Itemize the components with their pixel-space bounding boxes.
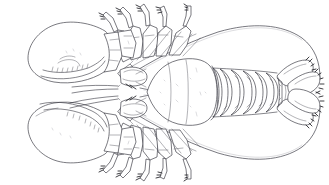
lobster-line-drawing	[0, 0, 329, 185]
illustration-figure: Lobster American lobster (Homarus americ…	[0, 0, 329, 185]
